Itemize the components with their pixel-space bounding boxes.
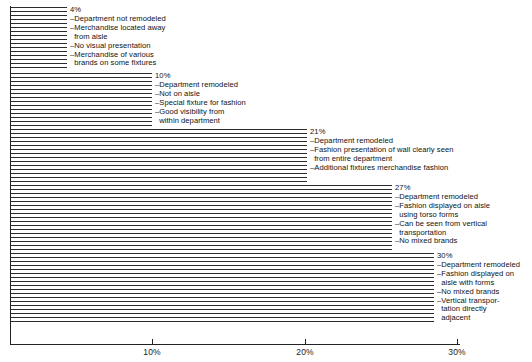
bar-30	[11, 253, 434, 323]
x-tick-label-30: 30%	[448, 347, 465, 357]
annotation-line: brands on some fixtures	[70, 59, 166, 68]
bar-27	[11, 185, 392, 251]
annotation-line: adjacent	[437, 314, 520, 323]
y-axis	[10, 6, 11, 345]
annotation-line: within department	[155, 117, 246, 126]
annotation-bar-4: 4% –Department not remodeled –Merchandis…	[70, 6, 166, 68]
plot-area: 4% –Department not remodeled –Merchandis…	[0, 0, 532, 362]
bar-chart: 4% –Department not remodeled –Merchandis…	[0, 0, 532, 362]
annotation-bar-21: 21% –Department remodeled –Fashion prese…	[310, 128, 454, 173]
annotation-bar-30: 30% –Department remodeled –Fashion displ…	[437, 252, 520, 323]
bar-21	[11, 129, 307, 183]
annotation-line: –Additional fixtures merchandise fashion	[310, 164, 454, 173]
x-tick-label-20: 20%	[296, 347, 313, 357]
x-axis	[10, 344, 460, 345]
annotation-line: –No mixed brands	[395, 237, 490, 246]
annotation-bar-27: 27% –Department remodeled –Fashion displ…	[395, 184, 490, 246]
x-tick-10	[152, 339, 153, 345]
bar-4	[11, 7, 67, 71]
x-tick-label-10: 10%	[143, 347, 160, 357]
bar-10	[11, 73, 152, 127]
annotation-bar-10: 10% –Department remodeled –Not on aisle …	[155, 72, 246, 125]
x-tick-20	[305, 339, 306, 345]
x-tick-30	[457, 339, 458, 345]
